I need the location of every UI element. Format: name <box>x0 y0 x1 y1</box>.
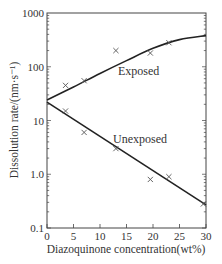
y-tick-label: 10 <box>33 115 45 127</box>
exposed-label: Exposed <box>118 64 159 78</box>
y-tick-label: 1000 <box>22 7 45 19</box>
x-marker-icon <box>166 174 171 179</box>
x-marker-icon <box>63 108 68 113</box>
x-tick-label: 15 <box>121 230 133 242</box>
x-marker-icon <box>148 177 153 182</box>
y-tick-label: 0.1 <box>30 222 44 234</box>
x-marker-icon <box>63 83 68 88</box>
plot-frame <box>47 13 206 228</box>
x-marker-icon <box>82 130 87 135</box>
x-tick-label: 5 <box>71 230 77 242</box>
x-tick-label: 25 <box>174 230 186 242</box>
x-marker-icon <box>148 50 153 55</box>
y-axis-title: Dissolution rate/(nm·s⁻¹) <box>8 62 21 179</box>
unexposed-label: Unexposed <box>113 132 167 146</box>
x-tick-label: 20 <box>148 230 160 242</box>
chart: 0510152025300.11.0101001000 Exposed Unex… <box>0 0 222 264</box>
fit-curve-unexposed <box>47 102 206 205</box>
x-marker-icon <box>113 48 118 53</box>
x-tick-label: 0 <box>44 230 50 242</box>
x-axis-title: Diazoquinone concentration(wt%) <box>47 243 206 256</box>
x-tick-label: 10 <box>95 230 107 242</box>
axis-ticks: 0510152025300.11.0101001000 <box>22 7 212 242</box>
fit-curves <box>47 36 206 205</box>
y-tick-label: 1.0 <box>30 168 44 180</box>
y-tick-label: 100 <box>28 61 45 73</box>
x-tick-label: 30 <box>201 230 213 242</box>
